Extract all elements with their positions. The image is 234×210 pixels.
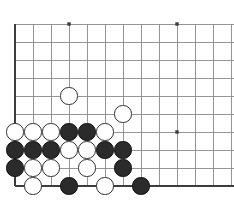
white-stone[interactable] xyxy=(6,123,23,140)
white-stone[interactable] xyxy=(42,159,59,176)
white-stone[interactable] xyxy=(114,105,131,122)
white-stone[interactable] xyxy=(24,177,41,194)
black-stone[interactable] xyxy=(6,141,23,158)
white-stone[interactable] xyxy=(24,123,41,140)
black-stone[interactable] xyxy=(132,177,149,194)
white-stone[interactable] xyxy=(42,123,59,140)
white-stone[interactable] xyxy=(96,123,113,140)
black-stone[interactable] xyxy=(6,159,23,176)
white-stone[interactable] xyxy=(78,141,95,158)
white-stone[interactable] xyxy=(78,159,95,176)
black-stone[interactable] xyxy=(114,159,131,176)
white-stone[interactable] xyxy=(24,159,41,176)
star-point xyxy=(175,22,178,25)
star-point xyxy=(67,22,70,25)
white-stone[interactable] xyxy=(60,141,77,158)
star-point xyxy=(175,130,178,133)
black-stone[interactable] xyxy=(60,177,77,194)
go-board-diagram xyxy=(0,0,234,210)
white-stone[interactable] xyxy=(60,87,77,104)
black-stone[interactable] xyxy=(42,141,59,158)
black-stone[interactable] xyxy=(78,123,95,140)
white-stone[interactable] xyxy=(96,177,113,194)
black-stone[interactable] xyxy=(60,123,77,140)
black-stone[interactable] xyxy=(114,141,131,158)
black-stone[interactable] xyxy=(96,141,113,158)
black-stone[interactable] xyxy=(24,141,41,158)
